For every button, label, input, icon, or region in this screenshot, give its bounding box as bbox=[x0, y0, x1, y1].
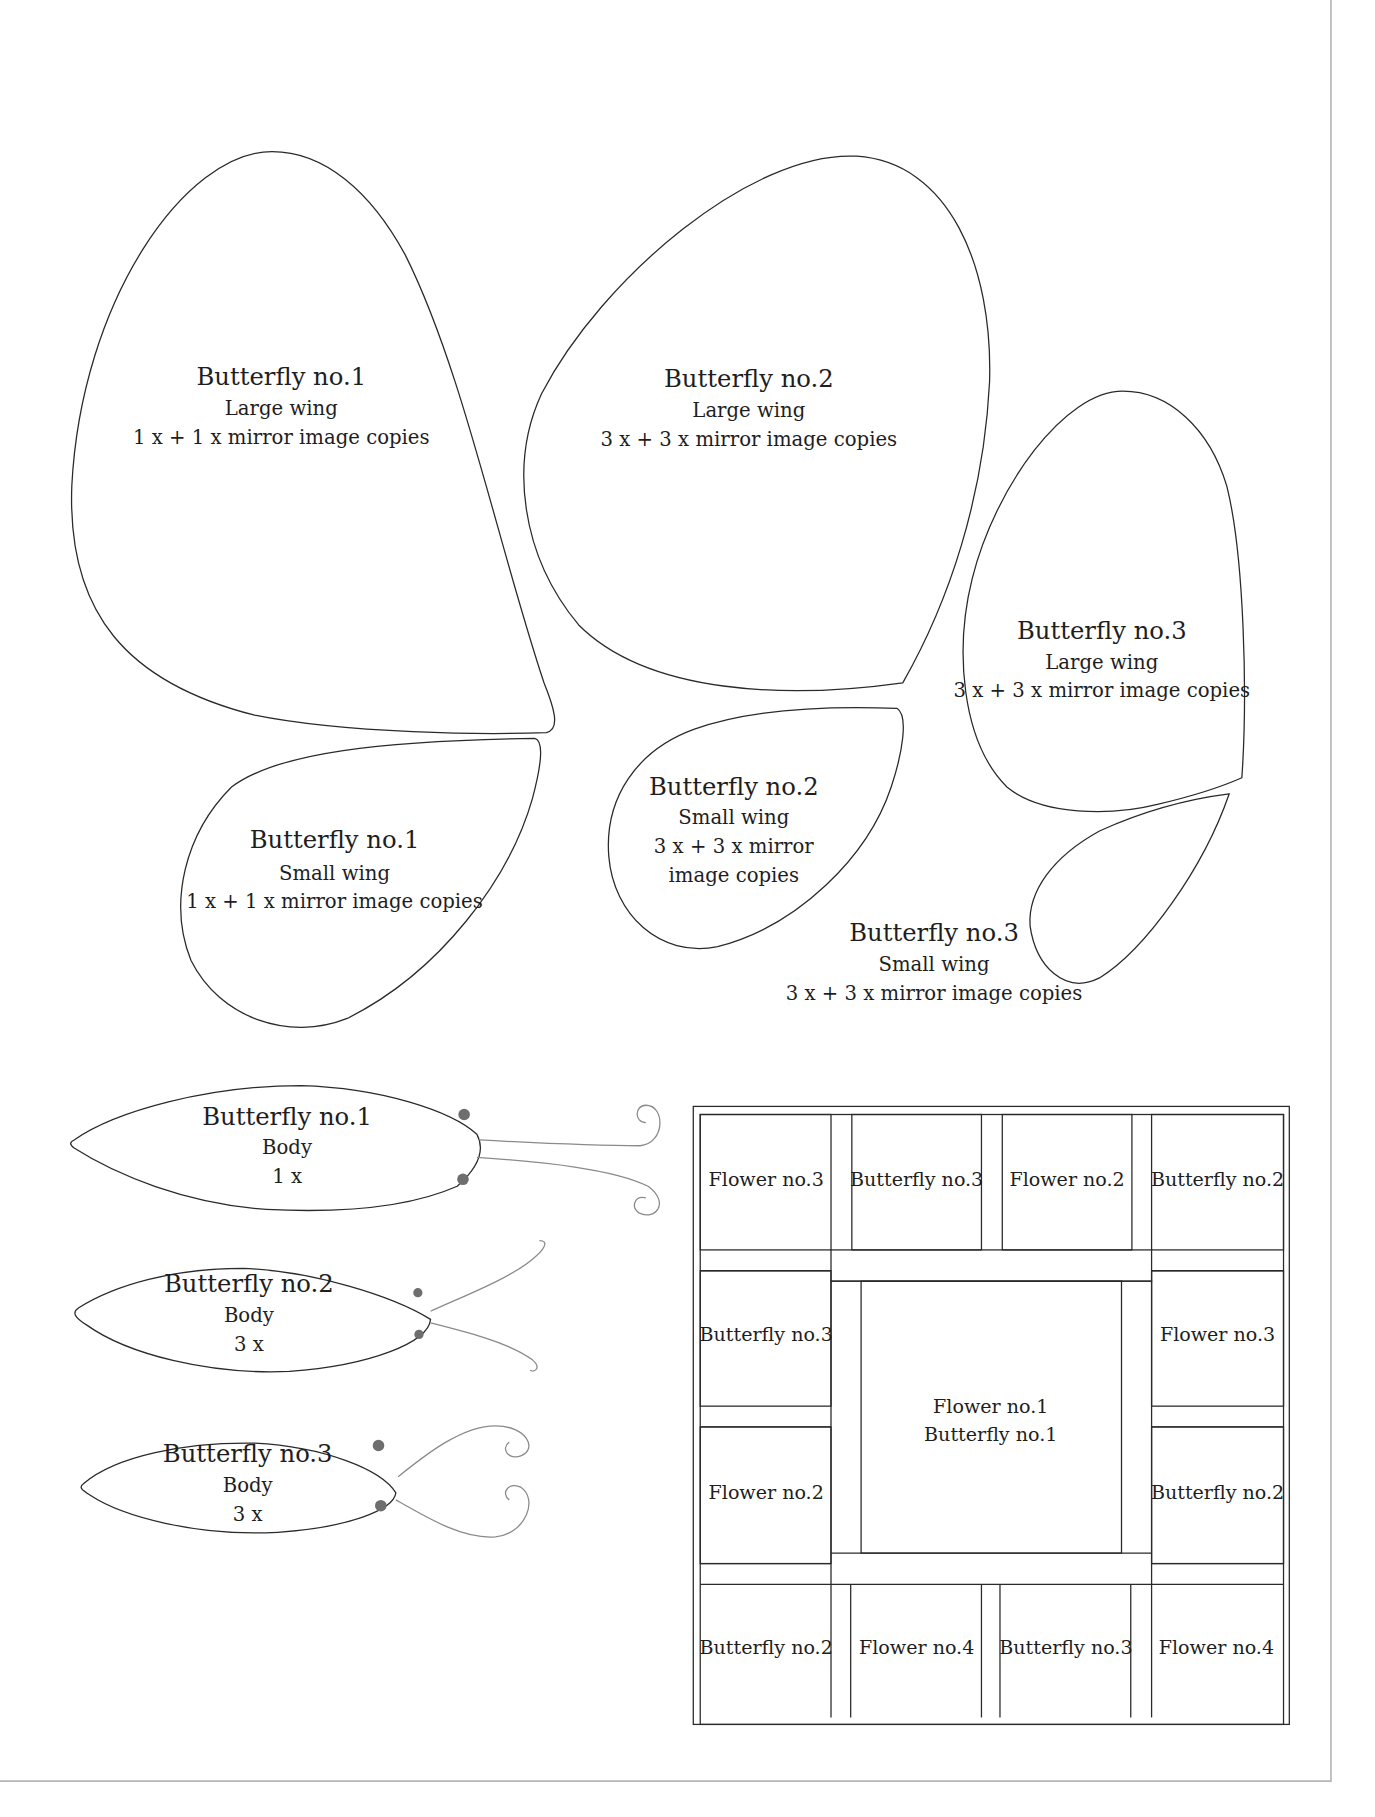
wing-copies: 3 x + 3 x mirror image copies bbox=[786, 982, 1083, 1005]
wing-title: Butterfly no.2 bbox=[664, 364, 834, 393]
wing-part: Large wing bbox=[692, 399, 805, 422]
wing-copies: 3 x + 3 x mirror image copies bbox=[601, 428, 898, 451]
body-copies: 3 x bbox=[234, 1333, 264, 1356]
body-title: Butterfly no.1 bbox=[202, 1102, 372, 1131]
body-title: Butterfly no.3 bbox=[163, 1439, 333, 1468]
body-copies: 3 x bbox=[233, 1503, 263, 1526]
body-template-b2: Butterfly no.2 Body 3 x bbox=[75, 1241, 545, 1372]
quilt-block-label: Flower no.4 bbox=[1159, 1636, 1274, 1659]
wing-template-b3-large: Butterfly no.3 Large wing 3 x + 3 x mirr… bbox=[954, 391, 1251, 811]
antenna-dot-icon bbox=[414, 1330, 423, 1339]
antenna-curl-icon bbox=[398, 1426, 529, 1477]
wing-copies: 3 x + 3 x mirror image copies bbox=[954, 679, 1251, 702]
antenna-dot-icon bbox=[458, 1109, 470, 1121]
quilt-block-label: Flower no.3 bbox=[709, 1168, 824, 1191]
body-copies: 1 x bbox=[272, 1165, 302, 1188]
antenna-curl-icon bbox=[431, 1323, 537, 1371]
body-template-b3: Butterfly no.3 Body 3 x bbox=[81, 1426, 529, 1537]
quilt-block-label: Butterfly no.2 bbox=[1151, 1481, 1284, 1504]
quilt-block-label: Flower no.3 bbox=[1160, 1323, 1275, 1346]
wing-copies: 3 x + 3 x mirror bbox=[654, 835, 814, 858]
wing-part: Small wing bbox=[678, 806, 789, 829]
wing-template-b2-small: Butterfly no.2 Small wing 3 x + 3 x mirr… bbox=[608, 708, 903, 949]
wing-title: Butterfly no.2 bbox=[649, 772, 819, 801]
body-title: Butterfly no.2 bbox=[164, 1269, 334, 1298]
antenna-dot-icon bbox=[413, 1288, 422, 1297]
wing-template-b2-large: Butterfly no.2 Large wing 3 x + 3 x mirr… bbox=[524, 156, 990, 691]
wing-title: Butterfly no.1 bbox=[250, 825, 420, 854]
antenna-curl-icon bbox=[396, 1486, 529, 1538]
antenna-curl-icon bbox=[477, 1157, 660, 1215]
wing-copies-cont: image copies bbox=[669, 864, 800, 887]
quilt-center-label: Butterfly no.1 bbox=[924, 1423, 1057, 1446]
wing-copies: 1 x + 1 x mirror image copies bbox=[133, 426, 430, 449]
quilt-block-label: Flower no.2 bbox=[709, 1481, 824, 1504]
wing-copies: 1 x + 1 x mirror image copies bbox=[186, 890, 483, 913]
antenna-curl-icon bbox=[431, 1241, 545, 1312]
body-template-b1: Butterfly no.1 Body 1 x bbox=[71, 1086, 660, 1215]
antenna-curl-icon bbox=[479, 1105, 660, 1146]
quilt-block-label: Butterfly no.3 bbox=[700, 1323, 833, 1346]
antenna-dot-icon bbox=[373, 1440, 385, 1452]
wing-template-b1-large: Butterfly no.1 Large wing 1 x + 1 x mirr… bbox=[72, 152, 555, 734]
body-part: Body bbox=[262, 1136, 313, 1159]
wing-title: Butterfly no.3 bbox=[1017, 616, 1187, 645]
quilt-block-label: Butterfly no.3 bbox=[850, 1168, 983, 1191]
wing-part: Large wing bbox=[225, 397, 338, 420]
quilt-inner-border bbox=[700, 1115, 1283, 1725]
wing-template-b3-small: Butterfly no.3 Small wing 3 x + 3 x mirr… bbox=[786, 794, 1229, 1005]
body-part: Body bbox=[224, 1304, 275, 1327]
quilt-sashing bbox=[831, 1250, 1152, 1281]
wing-title: Butterfly no.3 bbox=[849, 918, 1019, 947]
antenna-dot-icon bbox=[375, 1500, 387, 1512]
quilt-layout-diagram: Flower no.3 Butterfly no.3 Flower no.2 B… bbox=[693, 1106, 1289, 1724]
quilt-center-label: Flower no.1 bbox=[933, 1395, 1048, 1418]
wing-part: Small wing bbox=[879, 953, 990, 976]
quilt-block-label: Flower no.4 bbox=[859, 1636, 974, 1659]
pattern-page: Butterfly no.1 Large wing 1 x + 1 x mirr… bbox=[0, 0, 1375, 1817]
quilt-block-label: Butterfly no.2 bbox=[1151, 1168, 1284, 1191]
antenna-dot-icon bbox=[457, 1174, 469, 1186]
body-part: Body bbox=[223, 1474, 274, 1497]
wing-part: Small wing bbox=[279, 862, 390, 885]
wing-title: Butterfly no.1 bbox=[196, 362, 366, 391]
wing-template-b1-small: Butterfly no.1 Small wing 1 x + 1 x mirr… bbox=[181, 738, 541, 1027]
pattern-sheet: Butterfly no.1 Large wing 1 x + 1 x mirr… bbox=[0, 0, 1375, 1817]
quilt-block-label: Flower no.2 bbox=[1009, 1168, 1124, 1191]
quilt-block-label: Butterfly no.2 bbox=[700, 1636, 833, 1659]
quilt-block-label: Butterfly no.3 bbox=[999, 1636, 1132, 1659]
wing-part: Large wing bbox=[1045, 651, 1158, 674]
